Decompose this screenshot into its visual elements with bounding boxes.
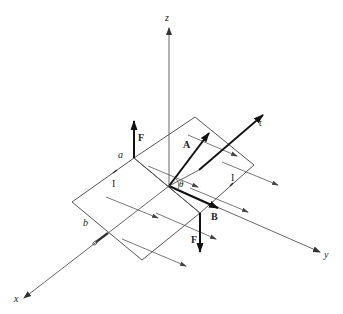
torque-base: [169, 170, 199, 186]
rotation-axis-marker: [96, 233, 108, 242]
current-label-left: I: [112, 179, 115, 189]
current-label-right: I: [231, 173, 234, 183]
axes: [24, 28, 320, 298]
force-bottom-label: F: [191, 235, 197, 245]
current-tick-left: [113, 170, 117, 173]
y-axis-label: y: [324, 250, 328, 260]
z-axis-label: z: [165, 13, 169, 23]
side-a-label: a: [118, 150, 123, 160]
side-b-label: b: [83, 218, 88, 228]
torque-label: τ: [258, 118, 262, 128]
angle-label: θ: [179, 180, 183, 189]
force-top-label: F: [138, 133, 144, 143]
area-label: A: [183, 140, 190, 150]
current-loop-diagram: z x y F F A B τ a b I I θ: [0, 0, 343, 314]
diagram-canvas: [0, 0, 343, 314]
field-label: B: [211, 212, 218, 222]
torque-vector: [199, 115, 263, 170]
x-axis-label: x: [14, 294, 18, 304]
